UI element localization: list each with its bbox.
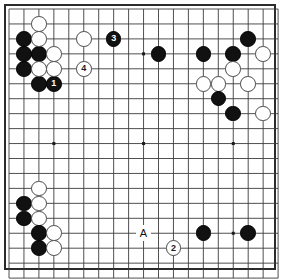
- screenshot-root: 1342 A: [0, 0, 283, 279]
- go-board[interactable]: 1342 A: [0, 0, 283, 279]
- board-surface[interactable]: [4, 4, 276, 270]
